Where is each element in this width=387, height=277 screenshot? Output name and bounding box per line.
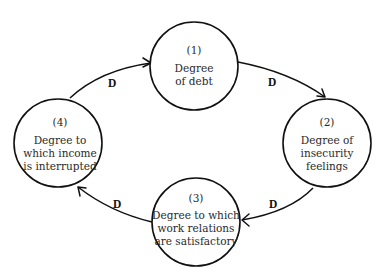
node-label-line: Degree to which (152, 209, 240, 221)
node-label-line: Degree (175, 62, 214, 74)
node-label-line: feelings (306, 160, 348, 172)
node-label-line: work relations (158, 222, 235, 234)
node-label-line: is interrupted (23, 160, 97, 172)
edge-label-1-2: D (268, 76, 276, 88)
edge-label-3-4: D (113, 198, 121, 210)
node-degree-of-debt: (1) Degree of debt (150, 22, 238, 110)
edge-3-to-4: D (78, 187, 152, 222)
node-income-interrupted: (4) Degree to which income is interrupte… (14, 99, 102, 187)
node-label-line: are satisfactory (155, 235, 238, 247)
edge-2-to-3: D (242, 188, 313, 226)
edge-1-to-2: D (238, 62, 325, 97)
edge-4-to-1: D (70, 58, 151, 98)
node-number: (4) (53, 116, 68, 128)
node-label-line: Degree to (34, 134, 87, 146)
node-number: (2) (320, 116, 335, 128)
node-work-relations: (3) Degree to which work relations are s… (152, 178, 240, 266)
node-label-line: of debt (175, 75, 213, 87)
node-number: (3) (189, 192, 204, 204)
node-label-line: which income (23, 147, 97, 159)
node-label-line: insecurity (301, 147, 354, 159)
node-number: (1) (187, 44, 202, 56)
edge-label-2-3: D (269, 198, 277, 210)
node-insecurity-feelings: (2) Degree of insecurity feelings (283, 99, 371, 187)
causal-loop-diagram: D D D D (1) Degree of debt (2) Degree of… (0, 0, 387, 277)
node-label-line: Degree of (301, 134, 354, 146)
edge-label-4-1: D (108, 77, 116, 89)
